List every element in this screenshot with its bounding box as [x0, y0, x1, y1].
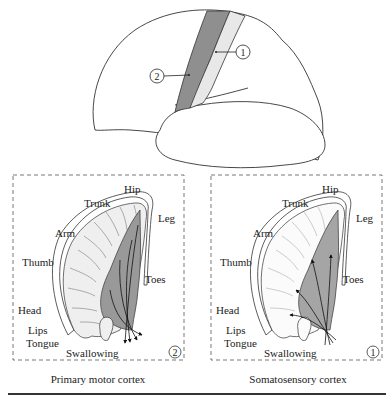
label-lips: Lips: [226, 324, 246, 336]
label-hip: Hip: [322, 183, 339, 195]
label-leg: Leg: [356, 212, 374, 224]
callout-2-label: 2: [155, 71, 160, 82]
label-swallowing: Swallowing: [264, 347, 317, 359]
panel-somatosensory-cortex: Hip Trunk Leg Arm Thumb Toes Head Lips T…: [211, 175, 382, 385]
label-swallowing: Swallowing: [66, 347, 119, 359]
label-trunk: Trunk: [84, 197, 111, 209]
label-hip: Hip: [124, 183, 141, 195]
svg-text:2: 2: [173, 347, 178, 358]
label-toes: Toes: [343, 273, 364, 285]
cortex-diagram: 1 2: [0, 0, 388, 396]
label-toes: Toes: [145, 273, 166, 285]
panel-caption: Primary motor cortex: [51, 373, 146, 385]
label-thumb: Thumb: [22, 256, 54, 268]
label-trunk: Trunk: [282, 197, 309, 209]
brain-lateral-view: 1 2: [93, 10, 325, 168]
bottom-rule: [8, 393, 386, 395]
label-head: Head: [216, 304, 240, 316]
label-lips: Lips: [28, 324, 48, 336]
label-tongue: Tongue: [224, 337, 257, 349]
label-head: Head: [18, 304, 42, 316]
panel-primary-motor-cortex: Hip Trunk Leg Arm Thumb Toes Head Lips T…: [13, 175, 184, 385]
label-leg: Leg: [158, 212, 176, 224]
label-arm: Arm: [253, 227, 274, 239]
label-tongue: Tongue: [26, 337, 59, 349]
label-thumb: Thumb: [220, 256, 252, 268]
label-arm: Arm: [55, 227, 76, 239]
callout-1-label: 1: [241, 47, 246, 58]
svg-text:1: 1: [371, 347, 376, 358]
panel-caption: Somatosensory cortex: [249, 373, 347, 385]
